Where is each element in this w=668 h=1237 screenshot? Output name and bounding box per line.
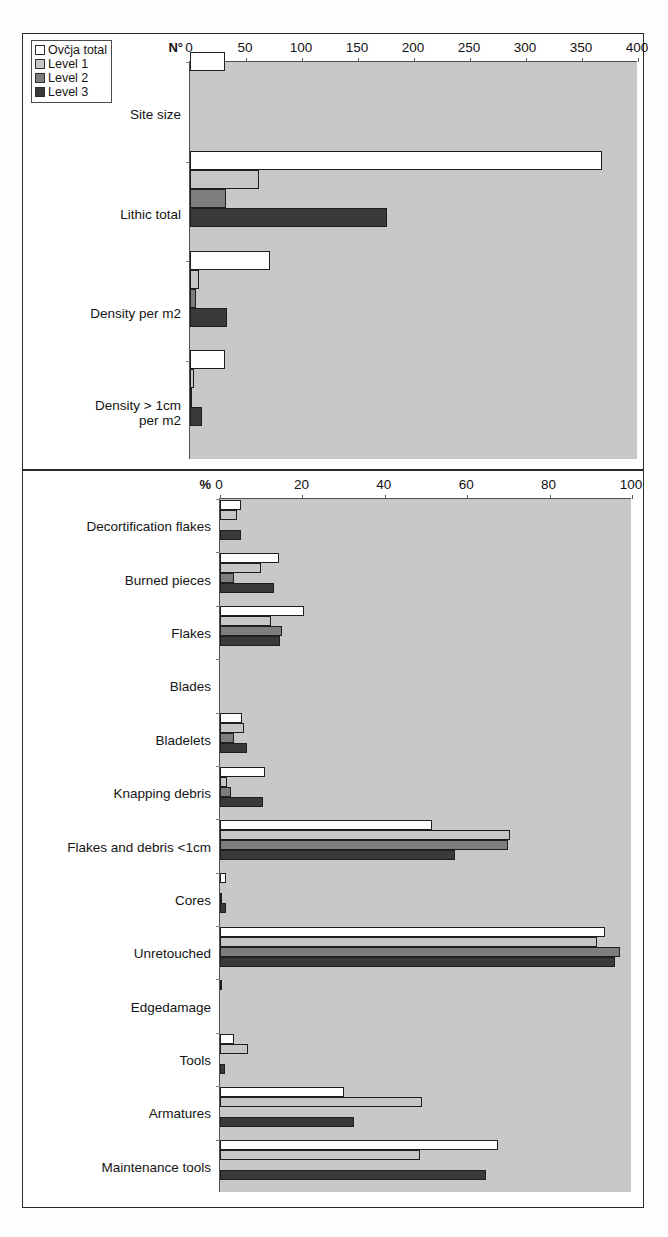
axis-tick-label: 50 [237, 40, 252, 55]
axis-tick-mark [302, 495, 303, 499]
axis-tick-mark [526, 58, 527, 62]
bar-level-1 [220, 1097, 422, 1107]
axis-y-tick [216, 552, 220, 553]
bar-ov-ja-total [220, 606, 304, 616]
bar-level-3 [220, 1170, 486, 1180]
axis-y-tick [216, 499, 220, 500]
axis-tick-mark [302, 58, 303, 62]
axis-tick-mark [414, 58, 415, 62]
bar-level-3 [190, 208, 387, 227]
legend-swatch-level-3 [35, 87, 45, 97]
bar-ov-ja-total [220, 927, 605, 937]
axis-y-tick [216, 926, 220, 927]
bar-level-3 [220, 903, 226, 913]
category-label: Decortification flakes [33, 519, 211, 534]
legend-item-level-2: Level 2 [35, 71, 107, 85]
axis-tick-label: 100 [290, 40, 313, 55]
category-label: Site size [33, 107, 181, 122]
bar-level-2 [220, 626, 282, 636]
axis-tick-label: 60 [459, 477, 474, 492]
bar-level-1 [220, 777, 227, 787]
bar-level-3 [220, 797, 263, 807]
bar-level-3 [220, 1117, 354, 1127]
percent-plot-area [219, 498, 631, 1192]
axis-y-tick [216, 819, 220, 820]
axis-y-tick [186, 261, 190, 262]
category-label: Maintenance tools [33, 1160, 211, 1175]
axis-y-tick [216, 606, 220, 607]
counts-plot-area [189, 61, 637, 459]
bar-ov-ja-total [190, 52, 225, 71]
counts-x-axis: N° 050100150200250300350400 [23, 34, 643, 62]
bar-level-1 [220, 937, 597, 947]
percent-chart-panel: % 020406080100 Decortification flakesBur… [22, 470, 644, 1208]
legend-item-ovcja-total: Ovčja total [35, 43, 107, 57]
axis-tick-label: 200 [402, 40, 425, 55]
bar-ov-ja-total [190, 251, 270, 270]
bar-level-1 [220, 510, 237, 520]
legend-swatch-level-2 [35, 73, 45, 83]
bar-ov-ja-total [220, 980, 222, 990]
bar-level-2 [220, 840, 508, 850]
bar-ov-ja-total [220, 820, 432, 830]
bar-ov-ja-total [220, 713, 242, 723]
bar-ov-ja-total [220, 500, 241, 510]
legend-swatch-ovcja-total [35, 45, 45, 55]
bar-level-2 [190, 189, 226, 208]
axis-tick-label: 400 [626, 40, 649, 55]
axis-y-tick [186, 361, 190, 362]
axis-tick-mark [385, 495, 386, 499]
bar-level-3 [190, 308, 227, 327]
bar-level-1 [190, 369, 194, 388]
bar-ov-ja-total [220, 767, 265, 777]
bar-level-1 [190, 170, 259, 189]
legend-label-level-1: Level 1 [48, 57, 88, 71]
axis-tick-mark [467, 495, 468, 499]
bar-ov-ja-total [220, 1034, 234, 1044]
bar-level-3 [220, 850, 455, 860]
axis-tick-label: 250 [458, 40, 481, 55]
bar-level-1 [220, 563, 261, 573]
bar-level-2 [220, 947, 620, 957]
category-label: Armatures [33, 1106, 211, 1121]
bar-level-2 [190, 289, 196, 308]
axis-tick-label: 350 [570, 40, 593, 55]
axis-tick-mark [638, 58, 639, 62]
axis-tick-label: 40 [376, 477, 391, 492]
bar-level-3 [220, 957, 615, 967]
legend-swatch-level-1 [35, 59, 45, 69]
axis-tick-mark [470, 58, 471, 62]
category-label: Blades [33, 679, 211, 694]
axis-tick-mark [632, 495, 633, 499]
bar-level-3 [220, 636, 280, 646]
bar-ov-ja-total [190, 350, 225, 369]
category-label: Cores [33, 893, 211, 908]
legend-item-level-3: Level 3 [35, 85, 107, 99]
axis-tick-mark [246, 58, 247, 62]
axis-y-tick [186, 62, 190, 63]
axis-y-tick [216, 873, 220, 874]
axis-tick-label: 300 [514, 40, 537, 55]
bar-level-2 [220, 787, 231, 797]
bar-level-2 [220, 573, 234, 583]
category-label: Tools [33, 1053, 211, 1068]
category-label: Density per m2 [33, 306, 181, 321]
category-label: Edgedamage [33, 1000, 211, 1015]
axis-tick-label: 150 [346, 40, 369, 55]
bar-level-3 [220, 1064, 225, 1074]
axis-y-tick [216, 1140, 220, 1141]
category-label: Unretouched [33, 946, 211, 961]
chart-legend: Ovčja total Level 1 Level 2 Level 3 [31, 40, 112, 103]
axis-tick-label: 0 [215, 477, 223, 492]
axis-y-tick [216, 659, 220, 660]
axis-y-tick [216, 766, 220, 767]
bar-ov-ja-total [220, 1140, 498, 1150]
axis-y-tick [216, 1086, 220, 1087]
bar-level-3 [220, 530, 241, 540]
axis-y-tick [216, 1033, 220, 1034]
bar-ov-ja-total [220, 1087, 344, 1097]
legend-label-ovcja-total: Ovčja total [48, 43, 107, 57]
legend-label-level-3: Level 3 [48, 85, 88, 99]
bar-ov-ja-total [220, 553, 279, 563]
bar-level-1 [220, 723, 244, 733]
